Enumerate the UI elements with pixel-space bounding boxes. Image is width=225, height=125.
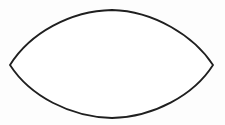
lens-shape-svg: Lens shape outline: [0, 0, 225, 125]
figure-canvas: Lens shape outline Vesica piscis (pointe…: [0, 0, 225, 125]
